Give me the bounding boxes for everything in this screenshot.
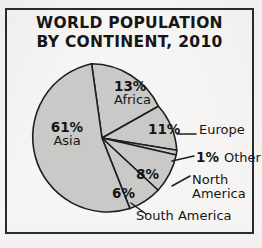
slice-pct-europe-wrap: 11% xyxy=(148,122,180,136)
callout-label-other: 1% Other xyxy=(196,150,261,165)
slice-pct-south-america: 6% xyxy=(112,185,135,201)
slice-name-europe: Europe xyxy=(199,122,245,137)
pie-chart-figure: WORLD POPULATION BY CONTINENT, 2010 xyxy=(0,0,262,248)
callout-label-south-america: South America xyxy=(136,208,232,223)
slice-pct-europe: 11% xyxy=(148,121,180,137)
slice-name-africa: Africa xyxy=(114,93,166,106)
callout-label-europe: Europe xyxy=(199,122,245,137)
slice-name-north-america-line-1: North xyxy=(192,173,246,187)
slice-pct-south-america-wrap: 6% xyxy=(112,186,135,200)
callout-label-north-america: North America xyxy=(192,173,246,201)
slice-name-asia: Asia xyxy=(40,134,94,147)
slice-name-north-america-line-2: America xyxy=(192,187,246,201)
slice-name-other: Other xyxy=(224,150,261,165)
leader-line-north-america xyxy=(172,176,190,186)
slice-pct-north-america-wrap: 8% xyxy=(136,167,159,181)
slice-label-africa: 13% Africa xyxy=(114,80,166,106)
slice-label-asia: 61% Asia xyxy=(40,121,94,147)
slice-pct-north-america: 8% xyxy=(136,166,159,182)
slice-pct-other: 1% xyxy=(196,149,219,165)
slice-name-south-america: South America xyxy=(136,208,232,223)
